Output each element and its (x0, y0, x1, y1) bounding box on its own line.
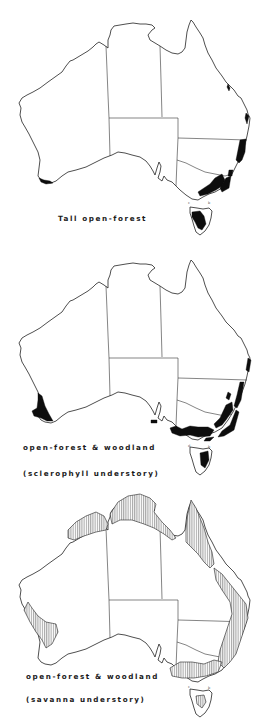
caption-line-2: (savanna understory) (26, 695, 146, 704)
caption-line-1: Tall open-forest (58, 214, 147, 223)
australia-map: cb (0, 0, 272, 240)
svg-text:d: d (188, 444, 190, 448)
caption-line-1: open-forest & woodland (23, 443, 156, 452)
map-panel-savanna-understory: cb open-forest & woodland (savanna under… (0, 480, 272, 724)
australia-map: cb (0, 480, 272, 724)
map-panel-tall-open-forest: cb Tall open-forest (0, 0, 272, 240)
caption-line-2: (sclerophyll understory) (23, 469, 159, 478)
svg-text:c: c (188, 685, 190, 689)
map-panel-sclerophyll-understory: db open-forest & woodland (sclerophyll u… (0, 240, 272, 480)
svg-text:c: c (188, 201, 190, 205)
svg-text:b: b (208, 686, 211, 690)
svg-text:b: b (208, 201, 211, 205)
svg-text:b: b (208, 445, 211, 449)
caption-line-1: open-forest & woodland (26, 672, 159, 681)
